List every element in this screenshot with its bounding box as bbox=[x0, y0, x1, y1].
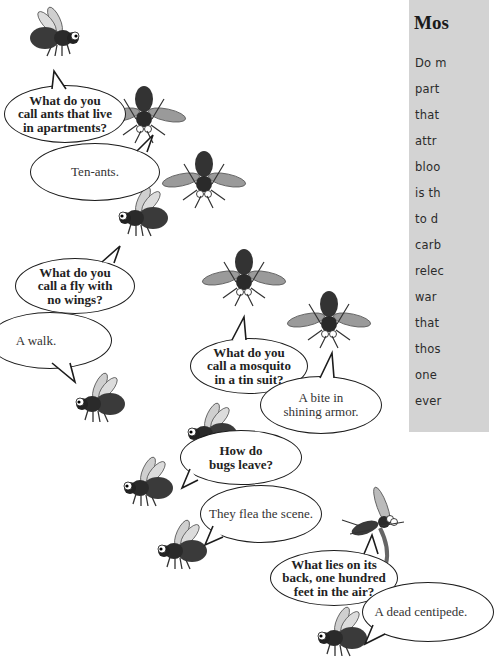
answer-text: Ten-ants. bbox=[71, 165, 119, 179]
sidebar-title: Mos bbox=[414, 12, 449, 34]
wasp-topdown-icon bbox=[290, 290, 370, 355]
question-text: What do you call a mosquito in a tin sui… bbox=[207, 346, 291, 387]
question-bubble: What do you call ants that live in apart… bbox=[4, 85, 126, 143]
answer-text: A dead centipede. bbox=[375, 605, 468, 619]
sidebar-text-line: attr bbox=[415, 134, 437, 148]
sidebar-text-line: one bbox=[415, 368, 437, 382]
bee-icon bbox=[113, 192, 173, 252]
question-text: What lies on its back, one hundred feet … bbox=[282, 558, 385, 599]
question-text: What do you call ants that live in apart… bbox=[18, 94, 112, 135]
speech-tail bbox=[135, 133, 155, 153]
speech-tail bbox=[50, 362, 78, 384]
bee-icon bbox=[30, 12, 85, 67]
speech-tail bbox=[318, 352, 338, 380]
sidebar-text-line: to d bbox=[415, 212, 438, 226]
speech-tail bbox=[180, 468, 200, 490]
sidebar-text-line: ever bbox=[415, 394, 441, 408]
question-text: How do bugs leave? bbox=[209, 444, 273, 471]
answer-text: A bite in shining armor. bbox=[283, 391, 358, 418]
answer-text: They flea the scene. bbox=[209, 507, 313, 521]
bee-icon bbox=[118, 462, 178, 517]
wasp-topdown-icon bbox=[205, 248, 285, 313]
speech-tail bbox=[230, 316, 250, 342]
sidebar-text-line: relec bbox=[415, 264, 444, 278]
sidebar-text-line: war bbox=[415, 290, 437, 304]
speech-tail bbox=[203, 525, 225, 547]
speech-tail bbox=[363, 624, 387, 646]
answer-bubble: A walk. bbox=[0, 312, 112, 369]
sidebar-text-line: bloo bbox=[415, 160, 440, 174]
sidebar-text-line: is th bbox=[415, 186, 441, 200]
question-text: What do you call a fly with no wings? bbox=[38, 266, 113, 307]
speech-tail bbox=[100, 244, 122, 264]
sidebar-text-line: part bbox=[415, 82, 439, 96]
answer-bubble: A bite in shining armor. bbox=[260, 376, 382, 434]
speech-tail bbox=[362, 534, 382, 556]
answer-text: A walk. bbox=[16, 334, 56, 348]
sidebar-text-line: carb bbox=[415, 238, 441, 252]
speech-tail bbox=[50, 70, 70, 90]
sidebar-panel: Mos Do m part that attr bloo is th to d … bbox=[409, 0, 489, 432]
question-bubble: What do you call a fly with no wings? bbox=[15, 258, 135, 314]
sidebar-text-line: that bbox=[415, 316, 439, 330]
sidebar-text-line: thos bbox=[415, 342, 441, 356]
sidebar-text-line: that bbox=[415, 108, 439, 122]
wasp-topdown-icon bbox=[165, 150, 245, 215]
bee-icon bbox=[70, 378, 130, 438]
sidebar-text-line: Do m bbox=[415, 56, 447, 70]
